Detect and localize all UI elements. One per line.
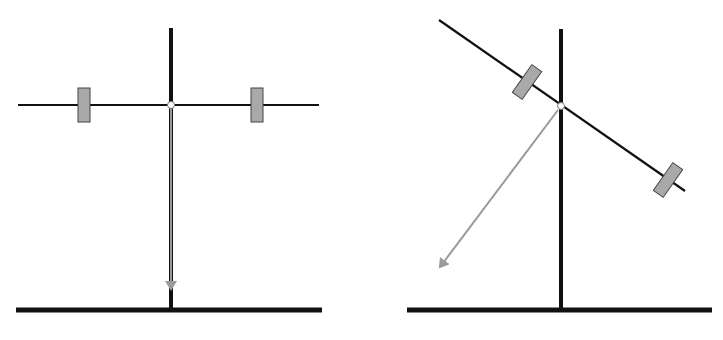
- right-weight: [251, 88, 263, 122]
- left-weight: [78, 88, 90, 122]
- lower-weight: [653, 163, 682, 198]
- diagram-stage: [0, 0, 723, 340]
- upper-weight: [512, 65, 541, 100]
- panel-balanced: [16, 28, 322, 310]
- pivot-point: [558, 103, 565, 110]
- balance-diagram: [0, 0, 723, 340]
- gravity-arrow: [440, 110, 558, 267]
- pivot-point: [168, 102, 175, 109]
- panel-tilted: [407, 20, 712, 310]
